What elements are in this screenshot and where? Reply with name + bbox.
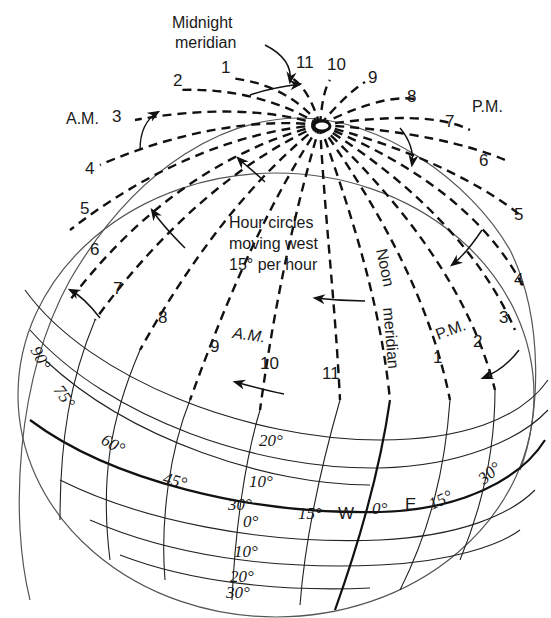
caption-line3: 15° per hour xyxy=(229,256,318,273)
am-label: A.M. xyxy=(66,110,99,127)
svg-text:7: 7 xyxy=(113,279,122,298)
svg-text:10°: 10° xyxy=(249,472,273,491)
svg-text:75°: 75° xyxy=(50,381,79,412)
svg-text:5: 5 xyxy=(80,199,89,218)
pole-marker xyxy=(314,121,330,131)
svg-text:3: 3 xyxy=(112,107,121,126)
svg-text:60°: 60° xyxy=(98,430,128,458)
svg-text:9: 9 xyxy=(210,337,219,356)
caption-line2: moving west xyxy=(229,235,318,252)
svg-text:30°: 30° xyxy=(474,458,505,489)
svg-text:9: 9 xyxy=(368,68,377,87)
celestial-globe-diagram: Midnight meridian A.M. P.M. A.M. P.M. Ho… xyxy=(0,0,551,618)
svg-text:4: 4 xyxy=(514,270,523,289)
svg-text:4: 4 xyxy=(85,159,94,178)
svg-text:E: E xyxy=(405,495,416,514)
svg-text:45°: 45° xyxy=(161,469,189,494)
midnight-label-line2: meridian xyxy=(175,34,236,51)
svg-text:2: 2 xyxy=(473,332,482,351)
svg-text:6: 6 xyxy=(90,240,99,259)
caption-line1: Hour circles xyxy=(229,214,313,231)
latitude-labels: 20° 10° 0° 10° 20° 30° xyxy=(225,431,283,602)
svg-text:2: 2 xyxy=(173,71,182,90)
svg-text:90°: 90° xyxy=(26,343,54,373)
svg-text:30°: 30° xyxy=(225,583,250,602)
pm-label: P.M. xyxy=(472,98,503,115)
svg-text:1: 1 xyxy=(433,348,442,367)
noon-label: Noon xyxy=(373,247,398,288)
svg-text:15°: 15° xyxy=(298,504,322,523)
midnight-label-line1: Midnight xyxy=(172,14,233,31)
svg-text:0°: 0° xyxy=(243,512,259,531)
svg-text:11: 11 xyxy=(296,53,314,72)
pm-inner-label: P.M. xyxy=(433,316,468,343)
svg-text:15°: 15° xyxy=(426,486,456,513)
svg-text:10: 10 xyxy=(260,354,279,373)
svg-text:5: 5 xyxy=(514,205,523,224)
meridian-label: meridian xyxy=(380,307,402,370)
svg-text:1: 1 xyxy=(221,58,230,77)
am-inner-label: A.M. xyxy=(231,324,267,346)
svg-text:10°: 10° xyxy=(234,542,258,561)
svg-text:3: 3 xyxy=(499,308,508,327)
svg-text:7: 7 xyxy=(445,112,454,131)
svg-text:W: W xyxy=(338,504,354,523)
svg-text:6: 6 xyxy=(479,151,488,170)
svg-text:10: 10 xyxy=(327,55,346,74)
svg-text:8: 8 xyxy=(407,87,416,106)
svg-text:8: 8 xyxy=(158,308,167,327)
svg-text:0°: 0° xyxy=(372,499,388,518)
svg-text:11: 11 xyxy=(322,364,340,383)
svg-text:20°: 20° xyxy=(259,431,283,450)
